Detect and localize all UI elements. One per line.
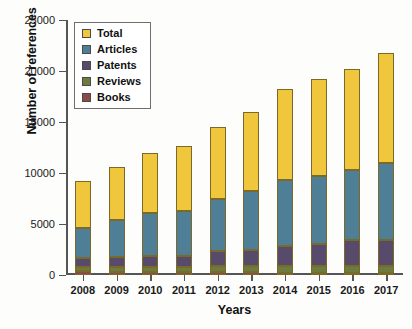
bar-segment-patents[interactable] — [243, 250, 259, 266]
y-tick-label: 0 — [49, 269, 55, 281]
legend-swatch-icon — [82, 29, 91, 38]
x-tick-mark — [218, 275, 219, 281]
x-tick-label: 2017 — [374, 284, 398, 296]
bar-segment-total[interactable] — [277, 89, 293, 180]
x-tick-label: 2009 — [104, 284, 128, 296]
x-tick-label: 2011 — [172, 284, 196, 296]
x-tick-mark — [319, 275, 320, 281]
bar-segment-articles[interactable] — [210, 199, 226, 251]
bar-chart: Number of references 0500010000150002000… — [0, 0, 412, 329]
bar-segment-reviews[interactable] — [311, 266, 327, 273]
bar-segment-books[interactable] — [311, 273, 327, 275]
bar-column[interactable] — [311, 79, 327, 275]
bar-segment-articles[interactable] — [311, 176, 327, 245]
bar-segment-total[interactable] — [75, 181, 91, 228]
bar-column[interactable] — [176, 146, 192, 276]
bar-segment-total[interactable] — [344, 69, 360, 170]
bar-segment-articles[interactable] — [344, 170, 360, 240]
bar-segment-articles[interactable] — [277, 180, 293, 247]
legend-label: Articles — [97, 44, 137, 55]
legend-item-articles[interactable]: Articles — [82, 44, 141, 55]
bar-segment-books[interactable] — [75, 271, 91, 275]
x-tick-label: 2016 — [340, 284, 364, 296]
y-tick-label: 10000 — [24, 167, 55, 179]
x-tick-label: 2013 — [239, 284, 263, 296]
legend-label: Books — [97, 92, 131, 103]
legend-swatch-icon — [82, 77, 91, 86]
x-axis-title: Years — [66, 303, 403, 317]
legend-item-total[interactable]: Total — [82, 28, 141, 39]
y-axis-line — [66, 20, 68, 275]
bar-segment-articles[interactable] — [75, 228, 91, 258]
bar-segment-articles[interactable] — [378, 163, 394, 240]
legend-label: Total — [97, 28, 122, 39]
x-tick-label: 2008 — [71, 284, 95, 296]
x-tick-label: 2012 — [205, 284, 229, 296]
bar-segment-total[interactable] — [378, 53, 394, 163]
bar-segment-patents[interactable] — [344, 240, 360, 266]
x-tick-label: 2010 — [138, 284, 162, 296]
x-tick-mark — [184, 275, 185, 281]
bar-column[interactable] — [75, 181, 91, 275]
bar-segment-patents[interactable] — [109, 257, 125, 268]
legend-swatch-icon — [82, 93, 91, 102]
x-tick-label: 2014 — [273, 284, 297, 296]
bar-column[interactable] — [378, 53, 394, 275]
x-tick-mark — [150, 275, 151, 281]
legend-label: Reviews — [97, 76, 141, 87]
bar-column[interactable] — [344, 69, 360, 276]
y-tick-label: 15000 — [24, 116, 55, 128]
legend-item-reviews[interactable]: Reviews — [82, 76, 141, 87]
x-tick-mark — [83, 275, 84, 281]
bar-segment-books[interactable] — [109, 272, 125, 275]
bar-column[interactable] — [210, 127, 226, 275]
y-tick-label: 25000 — [24, 14, 55, 26]
bar-column[interactable] — [142, 153, 158, 275]
bar-segment-patents[interactable] — [176, 256, 192, 267]
bar-segment-reviews[interactable] — [344, 266, 360, 273]
legend-swatch-icon — [82, 45, 91, 54]
bar-segment-patents[interactable] — [277, 246, 293, 266]
bar-segment-articles[interactable] — [142, 213, 158, 256]
bar-segment-total[interactable] — [142, 153, 158, 213]
bar-segment-books[interactable] — [378, 273, 394, 275]
bar-segment-books[interactable] — [243, 272, 259, 275]
bar-segment-books[interactable] — [277, 273, 293, 275]
bar-segment-books[interactable] — [210, 272, 226, 275]
legend-swatch-icon — [82, 61, 91, 70]
legend-label: Patents — [97, 60, 137, 71]
y-tick-mark — [59, 122, 66, 123]
bar-segment-books[interactable] — [142, 272, 158, 275]
legend-item-books[interactable]: Books — [82, 92, 141, 103]
bar-segment-patents[interactable] — [142, 256, 158, 267]
y-tick-label: 20000 — [24, 65, 55, 77]
x-tick-mark — [117, 275, 118, 281]
chart-legend: TotalArticlesPatentsReviewsBooks — [74, 22, 151, 109]
bar-column[interactable] — [243, 112, 259, 275]
bar-segment-patents[interactable] — [311, 244, 327, 266]
bar-segment-total[interactable] — [311, 79, 327, 175]
bar-segment-books[interactable] — [176, 272, 192, 275]
bar-segment-total[interactable] — [210, 127, 226, 198]
bar-segment-patents[interactable] — [75, 258, 91, 268]
bar-segment-patents[interactable] — [210, 251, 226, 267]
bar-segment-total[interactable] — [243, 112, 259, 192]
y-tick-mark — [59, 20, 66, 21]
y-tick-mark — [59, 71, 66, 72]
y-tick-mark — [59, 275, 66, 276]
bar-column[interactable] — [277, 89, 293, 275]
x-tick-mark — [352, 275, 353, 281]
legend-item-patents[interactable]: Patents — [82, 60, 141, 71]
bar-segment-books[interactable] — [344, 273, 360, 275]
bar-column[interactable] — [109, 167, 125, 275]
bar-segment-total[interactable] — [176, 146, 192, 211]
bar-segment-total[interactable] — [109, 167, 125, 220]
bar-segment-articles[interactable] — [109, 220, 125, 257]
bar-segment-articles[interactable] — [176, 211, 192, 256]
x-tick-mark — [251, 275, 252, 281]
bar-segment-articles[interactable] — [243, 191, 259, 250]
bar-segment-patents[interactable] — [378, 240, 394, 266]
bar-segment-reviews[interactable] — [378, 266, 394, 273]
x-tick-mark — [386, 275, 387, 281]
x-tick-mark — [285, 275, 286, 281]
